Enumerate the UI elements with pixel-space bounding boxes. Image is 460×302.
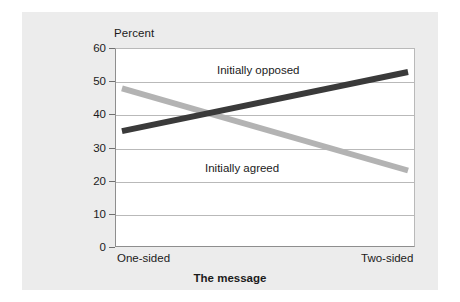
y-tick-label-20: 20 xyxy=(93,175,106,187)
x-axis-label: The message xyxy=(0,272,460,284)
y-axis-label: Percent xyxy=(114,27,154,39)
y-tick-mark-10 xyxy=(109,214,115,215)
y-tick-mark-0 xyxy=(109,247,115,248)
x-tick-label-two-sided: Two-sided xyxy=(361,252,413,264)
y-tick-label-10: 10 xyxy=(93,208,106,220)
y-tick-label-40: 40 xyxy=(93,108,106,120)
series-lines xyxy=(116,49,414,246)
y-tick-mark-50 xyxy=(109,81,115,82)
y-tick-mark-60 xyxy=(109,48,115,49)
y-tick-mark-30 xyxy=(109,148,115,149)
y-tick-mark-40 xyxy=(109,114,115,115)
y-tick-label-50: 50 xyxy=(93,75,106,87)
y-tick-label-30: 30 xyxy=(93,142,106,154)
chart-figure: Percent Initially opposed Initially agre… xyxy=(0,0,460,302)
x-tick-label-one-sided: One-sided xyxy=(117,252,170,264)
y-tick-label-0: 0 xyxy=(100,241,106,253)
y-tick-label-60: 60 xyxy=(93,42,106,54)
plot-area: Initially opposed Initially agreed xyxy=(115,48,415,247)
series-label-initially-agreed: Initially agreed xyxy=(205,162,279,174)
y-tick-mark-20 xyxy=(109,181,115,182)
series-label-initially-opposed: Initially opposed xyxy=(217,64,299,76)
